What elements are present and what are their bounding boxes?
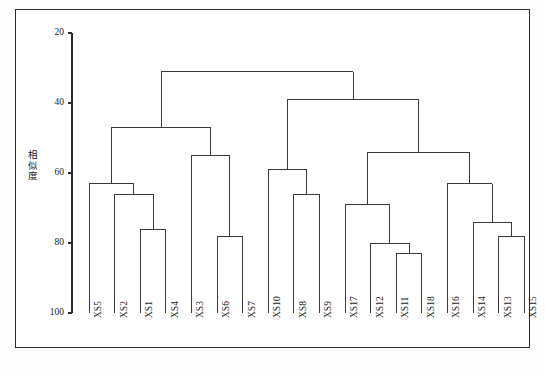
x-tick-label-XS16: XS16	[451, 296, 461, 318]
x-tick-label-XS4: XS4	[170, 301, 180, 318]
x-tick-label-XS11: XS11	[400, 297, 410, 318]
y-tick-label-20: 20	[38, 27, 64, 37]
x-tick-label-XS2: XS2	[119, 301, 129, 318]
x-tick-label-XS17: XS17	[349, 296, 359, 318]
y-tick-label-80: 80	[38, 237, 64, 247]
y-tick-label-40: 40	[38, 97, 64, 107]
y-axis	[68, 33, 72, 313]
x-tick-label-XS3: XS3	[195, 301, 205, 318]
x-tick-label-XS1: XS1	[144, 301, 154, 318]
x-tick-label-XS8: XS8	[298, 301, 308, 318]
x-tick-label-XS18: XS18	[426, 296, 436, 318]
x-tick-label-XS15: XS15	[528, 296, 538, 318]
x-tick-label-XS14: XS14	[477, 296, 487, 318]
dendrogram-figure: 相 似 度 20406080100 XS5XS2XS1XS4XS3XS6XS7X…	[0, 0, 545, 375]
x-tick-label-XS13: XS13	[503, 296, 513, 318]
x-tick-label-XS5: XS5	[93, 301, 103, 318]
dendrogram-tree	[89, 72, 524, 314]
x-tick-label-XS6: XS6	[221, 301, 231, 318]
x-tick-label-XS12: XS12	[375, 296, 385, 318]
x-tick-label-XS10: XS10	[272, 296, 282, 318]
y-tick-label-60: 60	[38, 167, 64, 177]
dendrogram-canvas	[0, 0, 545, 375]
y-tick-label-100: 100	[38, 307, 64, 317]
x-tick-label-XS9: XS9	[323, 301, 333, 318]
x-tick-label-XS7: XS7	[247, 301, 257, 318]
